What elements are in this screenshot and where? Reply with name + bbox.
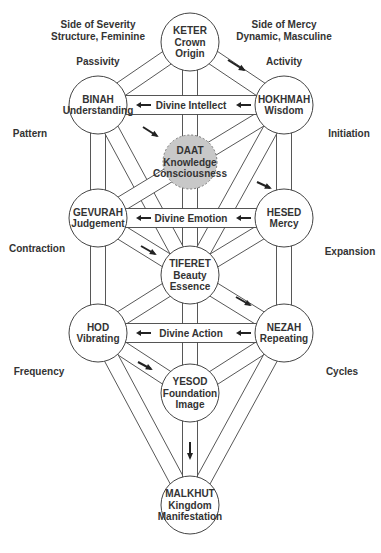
flow-arrow-icon [143,127,159,137]
label-pattern: Pattern [13,128,47,139]
sphere-attribute: Mercy [270,218,299,229]
sphere-attribute: Vibrating [76,333,119,344]
horizontal-path-label: Divine Action [159,328,223,339]
sphere-name: BINAH [82,94,114,105]
sphere-keter: KETERCrownOrigin [161,13,219,71]
sphere-hod: HODVibrating [69,304,127,362]
sphere-attribute: Essence [170,281,211,292]
label-expansion: Expansion [325,246,376,257]
sphere-attribute: Understanding [63,105,134,116]
sphere-attribute: Origin [175,48,204,59]
label-activity: Activity [266,56,303,67]
label-frequency: Frequency [14,366,65,377]
sphere-attribute: Knowledge [163,157,217,168]
sphere-name: HOKHMAH [258,94,310,105]
sphere-name: DAAT [176,145,203,156]
sphere-hokhmah: HOKHMAHWisdom [255,76,313,134]
severity-heading-line-1: Side of Severity [60,19,135,30]
sphere-gevurah: GEVURAHJudgement [69,189,127,247]
flow-arrow-icon [257,182,272,189]
sphere-nezah: NEZAHRepeating [255,304,313,362]
sphere-tiferet: TIFERETBeautyEssence [161,246,219,304]
sphere-attribute: Beauty [173,270,207,281]
sphere-attribute: Repeating [260,333,308,344]
label-cycles: Cycles [326,366,359,377]
horizontal-path-label: Divine Intellect [156,100,227,111]
sphere-name: NEZAH [267,322,301,333]
sphere-attribute: Consciousness [153,168,227,179]
sphere-name: KETER [173,25,208,36]
sphere-attribute: Image [176,399,205,410]
tree-of-life-diagram: Divine IntellectDivine EmotionDivine Act… [0,0,381,553]
mercy-heading-line-2: Dynamic, Masculine [236,31,332,42]
mercy-heading-line-1: Side of Mercy [251,19,316,30]
sphere-attribute: Kingdom [168,500,211,511]
label-initiation: Initiation [328,128,370,139]
sphere-yesod: YESODFoundationImage [161,364,219,422]
severity-heading-line-2: Structure, Feminine [51,31,145,42]
sphere-name: MALKHUT [165,488,214,499]
label-passivity: Passivity [76,56,120,67]
sphere-name: GEVURAH [73,207,123,218]
sphere-attribute: Manifestation [158,511,222,522]
sphere-malkhut: MALKHUTKingdomManifestation [158,476,222,534]
label-contraction: Contraction [9,243,65,254]
horizontal-path-label: Divine Emotion [155,213,228,224]
sphere-attribute: Crown [174,37,205,48]
sphere-hesed: HESEDMercy [255,189,313,247]
sphere-attribute: Wisdom [265,105,304,116]
sphere-attribute: Foundation [163,388,217,399]
sphere-name: HESED [267,207,301,218]
sphere-attribute: Judgement [71,218,125,229]
sphere-name: TIFERET [169,258,211,269]
sphere-name: HOD [87,322,109,333]
sphere-name: YESOD [172,376,207,387]
